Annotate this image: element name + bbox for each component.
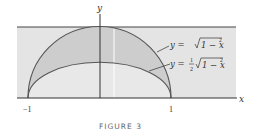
svg-text:y =: y = [169,40,185,50]
x-tick-neg1: −1 [23,105,32,114]
svg-text:1: 1 [190,57,193,63]
svg-text:2: 2 [219,37,222,43]
figure-caption: FIGURE 3 [99,122,142,131]
y-axis-label: y [96,3,103,13]
x-axis-label: x [239,94,244,104]
svg-text:y =: y = [169,59,185,69]
x-tick-1: 1 [169,105,173,114]
figure-3: y x −1 1 y = 1 − x 2 y = 1 2 1 − x 2 FIG… [0,0,253,133]
svg-text:2: 2 [190,66,193,72]
svg-text:2: 2 [220,57,223,63]
